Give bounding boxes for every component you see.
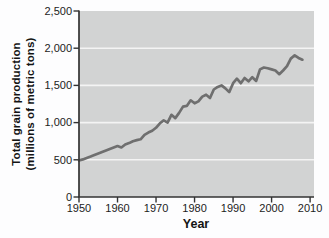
x-tick-label: 1980	[182, 202, 206, 214]
y-tick-label: 2,000	[44, 42, 72, 54]
y-tick-label: 1,500	[44, 79, 72, 91]
y-axis-title-line2: (millions of metric tons)	[24, 24, 38, 184]
y-tick-label: 500	[54, 154, 72, 166]
x-tick-label: 1990	[221, 202, 245, 214]
y-tick-label: 2,500	[44, 5, 72, 17]
plot-area	[79, 11, 314, 197]
y-tick-label: 1,000	[44, 116, 72, 128]
x-tick-label: 1970	[144, 202, 168, 214]
y-axis-title: Total grain production (millions of metr…	[10, 24, 38, 184]
grain-chart: 05001,0001,5002,0002,5001950196019701980…	[0, 0, 329, 238]
x-axis-title: Year	[79, 217, 313, 231]
x-tick-label: 1950	[67, 202, 91, 214]
x-tick-label: 2010	[298, 202, 322, 214]
y-axis-title-line1: Total grain production	[10, 24, 24, 184]
grain-production-figure: 05001,0001,5002,0002,5001950196019701980…	[0, 0, 329, 238]
x-tick-label: 1960	[105, 202, 129, 214]
x-tick-label: 2000	[259, 202, 283, 214]
